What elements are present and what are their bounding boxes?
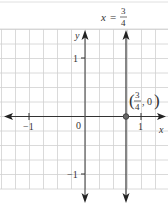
y-tick-neg1: −1	[67, 169, 78, 180]
x-tick-1: 1	[138, 121, 143, 132]
point-label-comma: ,	[142, 96, 145, 107]
equation-label: x = 3 4	[100, 6, 127, 28]
point-x-intercept	[123, 114, 129, 120]
point-label-y: 0	[147, 96, 152, 107]
origin-label: 0	[76, 120, 81, 131]
point-label-rparen: )	[154, 91, 160, 110]
equation-var: x	[100, 11, 106, 23]
point-label: ( 3 4 , 0 )	[129, 90, 160, 112]
y-tick-1: 1	[73, 53, 78, 64]
point-label-den: 4	[135, 102, 140, 112]
grid	[0, 29, 168, 189]
y-axis-label: y	[74, 30, 80, 41]
x-tick-neg1: −1	[23, 121, 34, 132]
graph-figure: x = 3 4 x −1 1 0 y 1 −1 ( 3 4	[0, 0, 168, 210]
equation-den: 4	[121, 18, 126, 28]
equation-num: 3	[121, 6, 126, 16]
point-label-num: 3	[135, 90, 140, 100]
equation-eq: =	[110, 11, 116, 23]
x-axis-label: x	[158, 124, 164, 135]
